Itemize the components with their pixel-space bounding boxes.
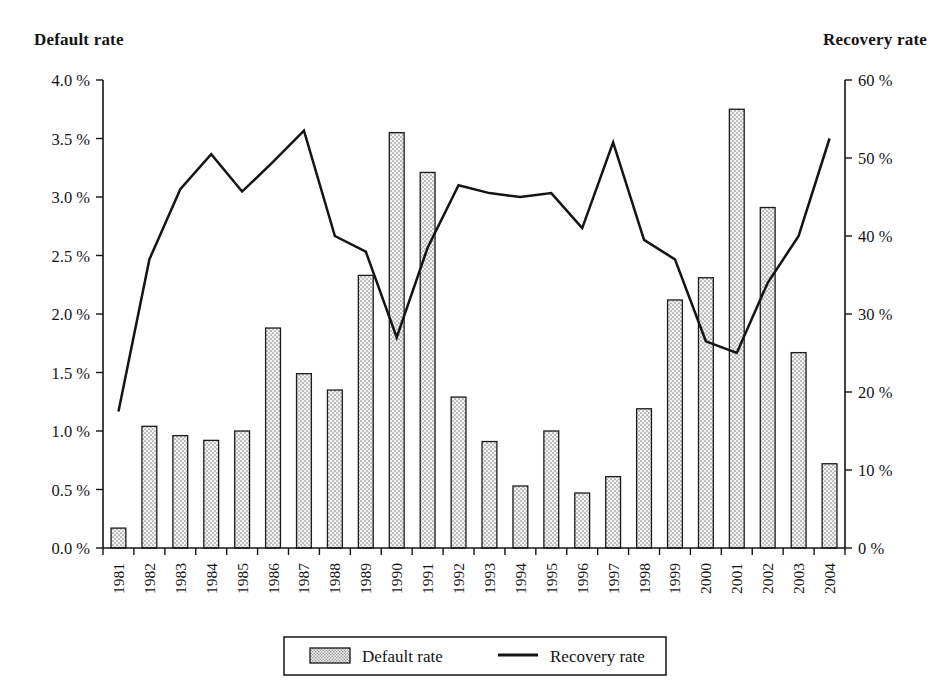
right-axis: 0 %10 %20 %30 %40 %50 %60 % <box>845 71 893 558</box>
x-tick-label-1982: 1982 <box>141 563 158 594</box>
legend-label-default-rate: Default rate <box>362 647 443 666</box>
y-tick-label: 4.0 % <box>52 71 91 90</box>
left-axis: 0.0 %0.5 %1.0 %1.5 %2.0 %2.5 %3.0 %3.5 %… <box>52 71 104 558</box>
x-tick-label-1993: 1993 <box>481 563 498 594</box>
bar-2000 <box>698 278 713 548</box>
y-tick-label: 2.5 % <box>52 247 91 266</box>
x-tick-label-1998: 1998 <box>636 563 653 594</box>
y2-tick-label: 10 % <box>858 461 893 480</box>
bar-1983 <box>173 436 188 548</box>
y-tick-label: 3.5 % <box>52 130 91 149</box>
bar-1985 <box>235 431 250 548</box>
bar-1991 <box>420 172 435 548</box>
legend-label-recovery-rate: Recovery rate <box>550 647 645 666</box>
x-tick-label-1983: 1983 <box>172 563 189 594</box>
bar-1998 <box>637 409 652 548</box>
x-tick-label-1988: 1988 <box>326 563 343 594</box>
chart-legend: Default rateRecovery rate <box>284 637 666 675</box>
bar-1997 <box>606 477 621 548</box>
x-tick-label-1990: 1990 <box>388 563 405 594</box>
x-tick-label-2001: 2001 <box>728 563 745 594</box>
bar-series-default-rate <box>111 109 837 548</box>
bar-1986 <box>266 328 281 548</box>
x-tick-label-1985: 1985 <box>234 563 251 594</box>
y-tick-label: 1.5 % <box>52 364 91 383</box>
bar-1982 <box>142 426 157 548</box>
bar-2002 <box>760 208 775 548</box>
y-tick-label: 3.0 % <box>52 188 91 207</box>
x-tick-label-1997: 1997 <box>605 563 622 594</box>
x-tick-label-1994: 1994 <box>512 563 529 594</box>
bar-1987 <box>297 374 312 548</box>
x-tick-label-1995: 1995 <box>543 563 560 594</box>
chart-container: Default rate Recovery rate 0.0 %0.5 %1.0… <box>0 0 943 688</box>
bar-2004 <box>822 464 837 548</box>
bar-1989 <box>358 275 373 548</box>
x-axis: 1981198219831984198519861987198819891990… <box>103 548 845 594</box>
x-tick-label-1996: 1996 <box>574 563 591 594</box>
bar-1999 <box>668 300 683 548</box>
bar-1994 <box>513 486 528 548</box>
x-tick-label-1981: 1981 <box>110 563 127 594</box>
line-series-recovery-rate <box>118 131 829 412</box>
x-tick-label-1989: 1989 <box>357 563 374 594</box>
y-tick-label: 0.0 % <box>52 539 91 558</box>
x-tick-label-1991: 1991 <box>419 563 436 594</box>
bar-2001 <box>729 109 744 548</box>
y2-tick-label: 30 % <box>858 305 893 324</box>
x-tick-label-2000: 2000 <box>697 563 714 594</box>
x-tick-label-2004: 2004 <box>821 563 838 594</box>
bar-1981 <box>111 528 126 548</box>
y-tick-label: 2.0 % <box>52 305 91 324</box>
y-tick-label: 0.5 % <box>52 481 91 500</box>
bar-1996 <box>575 493 590 548</box>
x-tick-label-2003: 2003 <box>790 563 807 594</box>
y2-tick-label: 0 % <box>858 539 884 558</box>
x-tick-label-1999: 1999 <box>666 563 683 594</box>
x-tick-label-2002: 2002 <box>759 563 776 594</box>
bar-1993 <box>482 442 497 548</box>
y2-tick-label: 20 % <box>858 383 893 402</box>
bar-1992 <box>451 397 466 548</box>
bar-1984 <box>204 440 219 548</box>
x-tick-label-1987: 1987 <box>295 563 312 594</box>
recovery-rate-polyline <box>118 131 829 412</box>
x-tick-label-1986: 1986 <box>265 563 282 594</box>
bar-1988 <box>327 390 342 548</box>
legend-swatch-default-rate <box>310 648 350 663</box>
y2-tick-label: 40 % <box>858 227 893 246</box>
x-tick-label-1992: 1992 <box>450 563 467 594</box>
y2-tick-label: 50 % <box>858 149 893 168</box>
x-tick-label-1984: 1984 <box>203 563 220 594</box>
bar-2003 <box>791 353 806 548</box>
y2-tick-label: 60 % <box>858 71 893 90</box>
y-tick-label: 1.0 % <box>52 422 91 441</box>
bar-1995 <box>544 431 559 548</box>
default-recovery-rate-chart: 0.0 %0.5 %1.0 %1.5 %2.0 %2.5 %3.0 %3.5 %… <box>0 0 943 688</box>
